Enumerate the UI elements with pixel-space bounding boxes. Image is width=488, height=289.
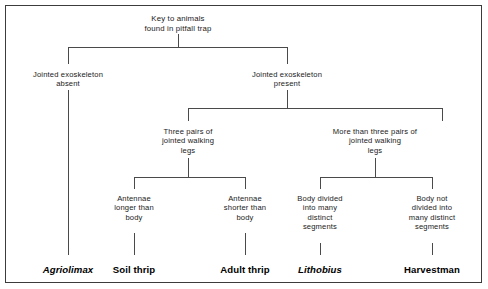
node-body-not-divided: Body not divided into many distinct segm… (409, 194, 455, 231)
terminal-agriolimax: Agriolimax (43, 264, 94, 275)
node-exoskeleton-absent: Jointed exoskeleton absent (33, 70, 103, 89)
node-root: Key to animals found in pitfall trap (145, 14, 212, 33)
terminal-lithobius: Lithobius (298, 264, 342, 275)
key-diagram-page: Key to animals found in pitfall trapJoin… (0, 0, 488, 289)
terminal-adult-thrip: Adult thrip (220, 264, 270, 275)
node-antennae-longer: Antennae longer than body (114, 194, 154, 222)
node-more-than-three-pairs-legs: More than three pairs of jointed walking… (333, 127, 417, 155)
node-body-divided: Body divided into many distinct segments (297, 194, 342, 231)
node-three-pairs-legs: Three pairs of jointed walking legs (162, 127, 214, 155)
node-exoskeleton-present: Jointed exoskeleton present (252, 70, 322, 89)
terminal-harvestman: Harvestman (404, 264, 460, 275)
terminal-soil-thrip: Soil thrip (113, 264, 156, 275)
node-antennae-shorter: Antennae shorter than body (224, 194, 266, 222)
